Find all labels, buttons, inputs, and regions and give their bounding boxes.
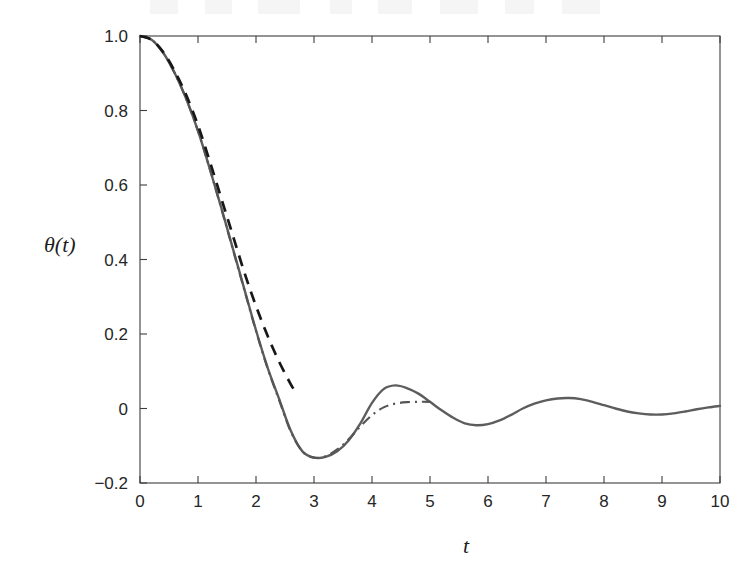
x-axis-label: t bbox=[463, 533, 470, 558]
y-tick-label: 0 bbox=[119, 400, 128, 419]
damped-oscillation-chart: 012345678910 −0.200.20.40.60.81.0 t θ(t) bbox=[0, 0, 750, 582]
y-tick-label: 0.8 bbox=[104, 102, 128, 121]
y-tick-label: 0.4 bbox=[104, 251, 128, 270]
axes-frame bbox=[140, 36, 720, 483]
x-axis-ticks bbox=[140, 36, 720, 483]
x-tick-label: 4 bbox=[367, 492, 376, 511]
x-tick-label: 6 bbox=[483, 492, 492, 511]
series-group bbox=[140, 36, 720, 458]
y-tick-label: 0.6 bbox=[104, 176, 128, 195]
y-tick-label: −0.2 bbox=[94, 474, 128, 493]
y-axis-tick-labels: −0.200.20.40.60.81.0 bbox=[94, 27, 128, 493]
x-tick-label: 2 bbox=[251, 492, 260, 511]
x-tick-label: 1 bbox=[193, 492, 202, 511]
y-axis-ticks bbox=[140, 36, 147, 483]
series-line-dash-dot bbox=[140, 36, 430, 458]
x-tick-label: 8 bbox=[599, 492, 608, 511]
x-tick-label: 0 bbox=[135, 492, 144, 511]
y-tick-label: 1.0 bbox=[104, 27, 128, 46]
chart-figure: 012345678910 −0.200.20.40.60.81.0 t θ(t) bbox=[0, 0, 750, 582]
x-tick-label: 10 bbox=[711, 492, 730, 511]
x-axis-tick-labels: 012345678910 bbox=[135, 492, 729, 511]
x-tick-label: 7 bbox=[541, 492, 550, 511]
x-tick-label: 9 bbox=[657, 492, 666, 511]
y-tick-label: 0.2 bbox=[104, 325, 128, 344]
series-line-solid bbox=[140, 36, 720, 458]
series-line-dashed bbox=[140, 36, 297, 394]
x-tick-label: 3 bbox=[309, 492, 318, 511]
x-tick-label: 5 bbox=[425, 492, 434, 511]
y-axis-label: θ(t) bbox=[44, 232, 76, 257]
